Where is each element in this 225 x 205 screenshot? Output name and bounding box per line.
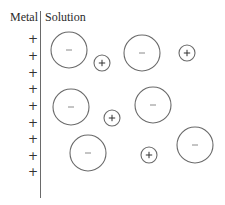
cation-icon (104, 110, 120, 126)
anion-icon (135, 87, 171, 123)
anion-icon (124, 35, 160, 71)
cation-icon (94, 55, 110, 71)
anion-icon (70, 135, 106, 171)
cation-icon (141, 147, 157, 163)
anion-icon (53, 89, 89, 125)
cation-icon (179, 45, 195, 61)
solution-ions (0, 0, 225, 205)
anion-icon (177, 127, 213, 163)
anion-icon (51, 32, 87, 68)
